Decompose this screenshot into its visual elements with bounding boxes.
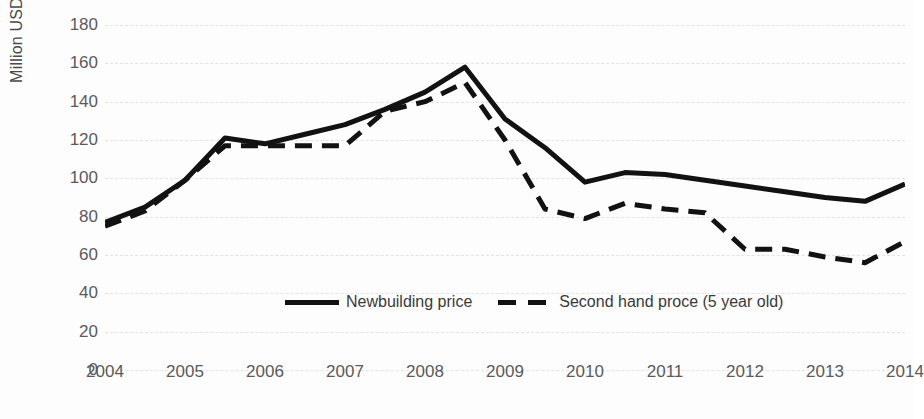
x-axis-tick-label: 2009 <box>486 362 524 382</box>
x-axis-tick-label: 2006 <box>246 362 284 382</box>
x-axis-tick-label: 2005 <box>166 362 204 382</box>
legend-label-newbuilding: Newbuilding price <box>346 294 472 310</box>
legend-label-secondhand: Second hand proce (5 year old) <box>559 294 783 310</box>
x-axis-tick-label: 2014 <box>886 362 924 382</box>
legend-entry-newbuilding[interactable]: Newbuilding price <box>285 294 472 310</box>
x-axis-tick-label: 2007 <box>326 362 364 382</box>
legend-entry-secondhand[interactable]: Second hand proce (5 year old) <box>498 294 783 310</box>
x-axis-tick-label: 2010 <box>566 362 604 382</box>
x-axis-tick-label: 2011 <box>647 362 684 382</box>
x-axis-tick-label: 2012 <box>726 362 764 382</box>
legend-line-solid-icon <box>285 300 339 305</box>
x-axis-tick-label: 2004 <box>86 362 124 382</box>
legend-line-dashed-icon <box>498 300 552 305</box>
x-axis-tick-label: 2008 <box>406 362 444 382</box>
chart-legend: Newbuilding price Second hand proce (5 y… <box>285 294 783 310</box>
x-axis-tick-label: 2013 <box>806 362 844 382</box>
